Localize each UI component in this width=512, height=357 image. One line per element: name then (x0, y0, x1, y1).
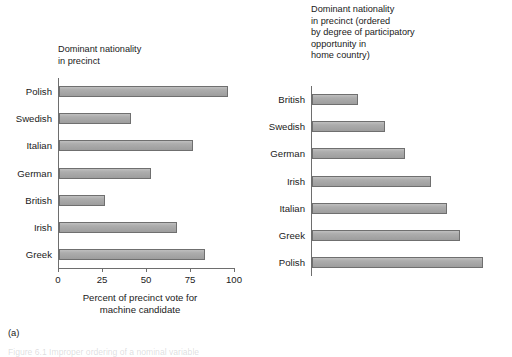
bar-category-label: Polish (26, 86, 52, 97)
bar-category-label: German (17, 168, 52, 179)
panel-b-plot-area: BritishSwedishGermanIrishItalianGreekPol… (311, 86, 489, 276)
panel-a-x-axis-line: 0255075100 (58, 268, 235, 269)
bar (59, 195, 105, 206)
x-axis-tick-label: 50 (141, 274, 152, 285)
bar-category-label: Italian (26, 140, 52, 151)
x-axis-tick (234, 268, 235, 272)
bar-row: Polish (311, 249, 489, 276)
bar-row: British (58, 187, 234, 214)
bar-category-label: British (278, 94, 305, 105)
bar-category-label: Irish (287, 176, 305, 187)
panel-b-title: Dominant nationality in precinct (ordere… (311, 4, 511, 62)
x-axis-tick (58, 268, 59, 272)
bar-row: Polish (58, 78, 234, 105)
bar (312, 148, 405, 159)
bar-category-label: Swedish (16, 113, 52, 124)
bar-row: Italian (311, 195, 489, 222)
panel-a-plot-area: PolishSwedishItalianGermanBritishIrishGr… (58, 78, 234, 268)
bar (59, 113, 131, 124)
bar (59, 140, 193, 151)
panel-a-bar-rows: PolishSwedishItalianGermanBritishIrishGr… (58, 78, 234, 268)
bar (312, 176, 431, 187)
figure-container: Dominant nationality in precinct PolishS… (0, 0, 512, 357)
bar (312, 257, 483, 268)
bar-row: Swedish (58, 105, 234, 132)
bar-category-label: Greek (26, 249, 52, 260)
x-axis-tick-label: 25 (97, 274, 108, 285)
bar (59, 86, 228, 97)
x-axis-tick-label: 75 (185, 274, 196, 285)
bar-row: Greek (58, 241, 234, 268)
bar (312, 121, 385, 132)
bar-row: Greek (311, 222, 489, 249)
bar-row: German (311, 140, 489, 167)
bar-category-label: British (25, 195, 52, 206)
x-axis-tick-label: 0 (55, 274, 60, 285)
bar-category-label: Swedish (269, 121, 305, 132)
bar-category-label: Italian (279, 203, 305, 214)
panel-b-bar-rows: BritishSwedishGermanIrishItalianGreekPol… (311, 86, 489, 276)
bar-row: British (311, 86, 489, 113)
bar-row: Irish (311, 167, 489, 194)
bar-category-label: Irish (34, 222, 52, 233)
x-axis-tick (146, 268, 147, 272)
bar (59, 168, 151, 179)
x-axis-tick (102, 268, 103, 272)
panel-a-letter: (a) (8, 327, 19, 338)
bar-row: German (58, 159, 234, 186)
x-axis-tick (190, 268, 191, 272)
bar-row: Irish (58, 214, 234, 241)
bar-category-label: Polish (279, 257, 305, 268)
bar (312, 230, 460, 241)
bar (312, 94, 358, 105)
chart-panel-a: Dominant nationality in precinct PolishS… (0, 0, 256, 357)
bar (59, 249, 205, 260)
bar (59, 222, 177, 233)
x-axis-tick-label: 100 (226, 274, 242, 285)
bar-category-label: Greek (279, 230, 305, 241)
bar-row: Italian (58, 132, 234, 159)
panel-a-title: Dominant nationality in precinct (58, 44, 248, 67)
panel-a-x-axis-title: Percent of precinct vote for machine can… (40, 292, 240, 316)
figure-caption: Figure 6.1 Improper ordering of a nomina… (8, 348, 308, 357)
bar-category-label: German (270, 148, 305, 159)
chart-panel-b: Dominant nationality in precinct (ordere… (253, 0, 512, 357)
bar (312, 203, 447, 214)
bar-row: Swedish (311, 113, 489, 140)
